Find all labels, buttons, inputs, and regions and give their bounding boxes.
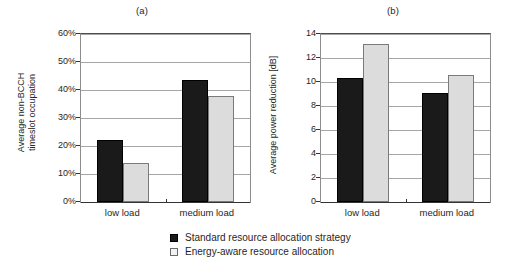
panel-a-y-tick-labels: 0%10%20%30%40%50%60% xyxy=(40,33,76,203)
y-tick-label: 10 xyxy=(306,76,316,86)
panel-a-y-axis-label-line2: timeslot occupation xyxy=(27,74,37,151)
bar xyxy=(448,75,474,202)
x-tick-label: medium load xyxy=(420,207,474,218)
y-tick-label: 20% xyxy=(58,140,76,150)
panel-a-title: (a) xyxy=(0,5,256,16)
legend-item-energy-aware: Energy-aware resource allocation xyxy=(170,246,334,257)
panel-a-plot-area xyxy=(80,33,251,203)
legend-item-standard: Standard resource allocation strategy xyxy=(170,232,351,243)
gridline xyxy=(81,90,250,91)
y-tick-label: 40% xyxy=(58,84,76,94)
panel-b-plot-area xyxy=(320,33,491,203)
y-tick-label: 0% xyxy=(63,196,76,206)
panel-a-y-axis-label-line1: Average non-BCCH xyxy=(16,73,26,152)
chart-legend: Standard resource allocation strategy En… xyxy=(0,232,512,257)
bar xyxy=(422,93,448,202)
bar xyxy=(182,80,208,202)
bar xyxy=(208,96,234,202)
panel-b-y-tick-labels: 02468101214 xyxy=(292,33,316,203)
gridline xyxy=(321,34,490,35)
gridline xyxy=(81,62,250,63)
gridline xyxy=(321,58,490,59)
y-tick-label: 12 xyxy=(306,52,316,62)
gridline xyxy=(81,34,250,35)
y-tick-label: 14 xyxy=(306,28,316,38)
y-tick-label: 10% xyxy=(58,168,76,178)
x-tick-label: low load xyxy=(345,207,380,218)
x-tick-mark xyxy=(166,199,167,203)
bar xyxy=(123,163,149,202)
bar xyxy=(337,78,363,202)
legend-label-energy-aware: Energy-aware resource allocation xyxy=(185,246,334,257)
panel-b-y-axis-label: Average power reduction [dB] xyxy=(268,30,279,200)
panel-a-y-axis-label: Average non-BCCH timeslot occupation xyxy=(16,30,37,195)
bar xyxy=(97,140,123,202)
x-tick-mark xyxy=(406,199,407,203)
y-tick-label: 60% xyxy=(58,28,76,38)
legend-swatch-open-square-icon xyxy=(170,248,178,256)
y-tick-label: 30% xyxy=(58,112,76,122)
panel-b-x-tick-labels: low loadmedium load xyxy=(0,207,512,221)
y-tick-label: 50% xyxy=(58,56,76,66)
chart-panel-a: (a) Average non-BCCH timeslot occupation… xyxy=(0,0,256,228)
panel-b-bars xyxy=(321,34,490,202)
figure-container: (a) Average non-BCCH timeslot occupation… xyxy=(0,0,512,275)
legend-swatch-filled-square-icon xyxy=(170,234,178,242)
legend-label-standard: Standard resource allocation strategy xyxy=(185,232,351,243)
panel-b-title: (b) xyxy=(256,5,512,16)
bar xyxy=(363,44,389,202)
